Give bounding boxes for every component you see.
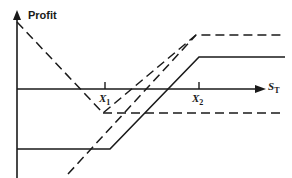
plot-canvas (0, 0, 292, 178)
tick-label-x1: X1 (99, 92, 110, 107)
dashed-lower-rising-segment (68, 35, 196, 174)
tick-label-x1-subscript: 1 (106, 98, 110, 107)
x-axis-group (17, 85, 266, 93)
x-axis-arrow-icon (255, 85, 266, 93)
solid-payoff-line (17, 57, 285, 149)
payoff-diagram-figure: Profit X1 X2 ST (0, 0, 292, 178)
x-axis-label-subscript: T (274, 86, 279, 95)
tick-label-x2-subscript: 2 (199, 98, 203, 107)
dashed-payoff-line (17, 22, 285, 113)
y-axis-label: Profit (28, 9, 57, 21)
y-axis-arrow-icon (13, 10, 21, 20)
x-axis-label: ST (268, 80, 279, 95)
y-axis-group (13, 10, 21, 178)
tick-label-x2: X2 (192, 92, 203, 107)
